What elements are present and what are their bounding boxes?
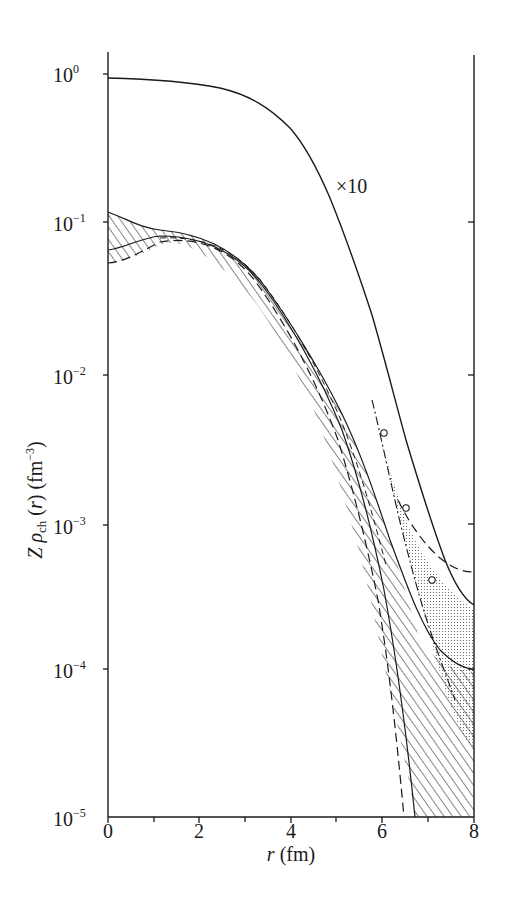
- svg-text:10−1: 10−1: [53, 211, 86, 235]
- svg-text:10−5: 10−5: [53, 806, 86, 830]
- data-point-marker: [381, 430, 387, 436]
- svg-text:10−2: 10−2: [53, 364, 86, 388]
- svg-text:10−3: 10−3: [53, 514, 86, 538]
- y-tick-exp: 0: [73, 62, 79, 76]
- svg-text:100: 100: [53, 62, 79, 86]
- data-point-marker: [429, 577, 435, 583]
- svg-text:Z ρch (r) (fm−3): Z ρch (r) (fm−3): [23, 441, 49, 558]
- hatched-uncertainty-band: [108, 212, 474, 817]
- svg-text:10−4: 10−4: [53, 658, 86, 682]
- x-tick-label: 0: [103, 820, 113, 842]
- scale-annotation: ×10: [336, 175, 367, 197]
- y-tick-base: 10: [53, 660, 73, 682]
- y-tick-base: 10: [53, 516, 73, 538]
- y-tick-exp: −2: [73, 364, 86, 378]
- x-tick-labels: 0 2 4 6 8: [103, 820, 479, 842]
- y-tick-labels: 100 10−1 10−2 10−3 10−4 10−5: [53, 62, 86, 830]
- y-axis-title: Z ρch (r) (fm−3): [23, 441, 49, 558]
- y-tick-base: 10: [53, 808, 73, 830]
- y-tick-base: 10: [53, 213, 73, 235]
- lower-band-upper-bound: [108, 212, 474, 670]
- y-tick-exp: −5: [73, 806, 86, 820]
- x-tick-label: 8: [469, 820, 479, 842]
- data-point-marker: [403, 505, 409, 511]
- y-tick-exp: −1: [73, 211, 86, 225]
- x-axis-title: r (fm): [267, 843, 315, 866]
- chart-canvas: 100 10−1 10−2 10−3 10−4 10−5 0 2 4 6 8 r…: [0, 0, 508, 912]
- y-tick-base: 10: [53, 366, 73, 388]
- x-tick-label: 2: [194, 820, 204, 842]
- x-tick-label: 6: [377, 820, 387, 842]
- x-tick-label: 4: [286, 820, 296, 842]
- y-tick-exp: −4: [73, 658, 86, 672]
- y-tick-base: 10: [53, 64, 73, 86]
- y-tick-exp: −3: [73, 514, 86, 528]
